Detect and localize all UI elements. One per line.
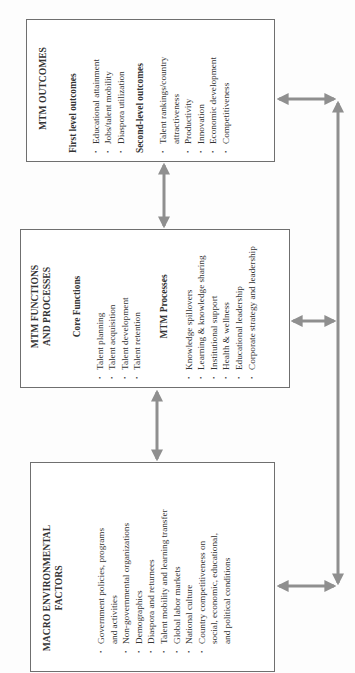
list-item: Talent acquisition (106, 234, 119, 379)
core-functions-list: Talent planning Talent acquisition Talen… (94, 234, 144, 379)
list-item: Knowledge spillovers (183, 234, 196, 379)
macro-box: MACRO ENVIRONMENTAL FACTORS Government p… (30, 462, 275, 672)
list-item: Diaspora utilization (115, 24, 128, 153)
first-level-list: Educational attainment Jobs/talent mobil… (90, 24, 128, 153)
core-functions-heading: Core Functions (71, 234, 84, 379)
list-item: Corporate strategy and leadership (246, 234, 259, 379)
functions-content: MTM FUNCTIONS AND PROCESSES Core Functio… (21, 230, 291, 389)
list-item: Country competitiveness on social, econo… (196, 525, 234, 653)
list-item: Jobs/talent mobility (102, 24, 115, 153)
list-item: Educational attainment (90, 24, 103, 153)
outcomes-title: MTM OUTCOMES (37, 24, 49, 153)
second-level-list: Talent rankings/country attractiveness P… (157, 24, 233, 153)
list-item: Non-governmental organizations (120, 525, 133, 653)
macro-content: MACRO ENVIRONMENTAL FACTORS Government p… (31, 463, 276, 673)
macro-title: MACRO ENVIRONMENTAL FACTORS (41, 509, 65, 653)
list-item: Educational leadership (233, 234, 246, 379)
list-item: National culture (183, 525, 196, 653)
list-item: Talent mobility and learning transfer (158, 525, 171, 653)
mtm-processes-list: Knowledge spillovers Learning & knowledg… (183, 234, 259, 379)
list-item: Talent development (119, 234, 132, 379)
list-item: Learning & knowledge sharing (195, 234, 208, 379)
list-item: Health & wellness (220, 234, 233, 379)
macro-list: Government policies, programs and activi… (95, 525, 234, 653)
functions-title: MTM FUNCTIONS AND PROCESSES (29, 234, 53, 379)
list-item: Competitiveness (220, 24, 233, 153)
mtm-processes-heading: MTM Processes (158, 234, 171, 379)
first-level-heading: First level outcomes (67, 24, 80, 153)
list-item: Global labor markets (171, 525, 184, 653)
list-item: Talent planning (94, 234, 107, 379)
second-level-heading: Second-level outcomes (134, 24, 147, 153)
list-item: Innovation (195, 24, 208, 153)
list-item: Demographics (133, 525, 146, 653)
list-item: Talent rankings/country attractiveness (157, 24, 182, 153)
list-item: Economic development (207, 24, 220, 153)
functions-box: MTM FUNCTIONS AND PROCESSES Core Functio… (20, 229, 290, 388)
list-item: Institutional support (208, 234, 221, 379)
outcomes-content: MTM OUTCOMES First level outcomes Educat… (27, 20, 276, 163)
list-item: Productivity (182, 24, 195, 153)
list-item: Diaspora and returnees (145, 525, 158, 653)
list-item: Government policies, programs and activi… (95, 525, 120, 653)
outcomes-box: MTM OUTCOMES First level outcomes Educat… (26, 19, 275, 162)
list-item: Talent retention (131, 234, 144, 379)
